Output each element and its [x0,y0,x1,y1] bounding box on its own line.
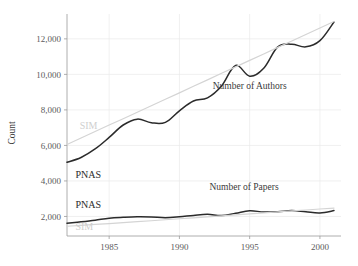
y-axis-title: Count [7,121,17,145]
series-line-sim-number-of-authors [67,21,334,144]
y-tick-label: 2,000 [41,212,62,222]
x-tick-label: 1990 [170,242,189,252]
chart-figure: 1985199019952000 2,0004,0006,0008,00010,… [0,0,358,266]
y-tick-label: 6,000 [41,141,62,151]
x-tick-label: 1995 [241,242,260,252]
annotation-number-of-authors: Number of Authors [213,81,287,91]
y-axis-ticks-group: 2,0004,0006,0008,00010,00012,000 [36,34,67,222]
series-label-sim-authors: SIM [80,120,98,131]
y-tick-label: 10,000 [36,70,61,80]
annotations-group: Number of AuthorsNumber of PapersPNASSIM… [75,81,286,232]
x-axis-ticks-group: 1985199019952000 [100,236,329,252]
y-tick-label: 8,000 [41,105,62,115]
series-label-pnas-authors: PNAS [75,169,101,180]
y-tick-label: 4,000 [41,176,62,186]
data-series-group [67,21,334,226]
series-line-pnas-number-of-authors [67,22,334,162]
x-tick-label: 1985 [100,242,119,252]
x-tick-label: 2000 [311,242,330,252]
line-chart-svg: 1985199019952000 2,0004,0006,0008,00010,… [0,0,358,266]
series-label-pnas-papers: PNAS [75,199,101,210]
series-line-sim-number-of-papers [67,208,334,226]
series-label-sim-papers: SIM [75,221,93,232]
y-tick-label: 12,000 [36,34,61,44]
annotation-number-of-papers: Number of Papers [209,182,278,192]
